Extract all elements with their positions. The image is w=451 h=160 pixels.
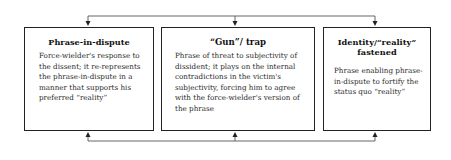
box-description: Force-wielder's response to the dissent;…	[39, 51, 149, 104]
box-gun-trap: “Gun”/ trap Phrase of threat to subjecti…	[161, 27, 315, 131]
box-description: Phrase enabling phrase-in-dispute to for…	[334, 66, 429, 98]
box-identity-reality-fastened: Identity/“reality” fastened Phrase enabl…	[323, 27, 431, 131]
box-title: Phrase-in-dispute	[25, 37, 153, 47]
box-title: “Gun”/ trap	[162, 37, 314, 47]
bottom-connector	[88, 136, 375, 141]
down-arrow-icon	[86, 21, 378, 26]
box-phrase-in-dispute: Phrase-in-dispute Force-wielder's respon…	[24, 27, 154, 131]
top-connector	[88, 16, 375, 22]
box-title: Identity/“reality” fastened	[324, 37, 430, 57]
up-arrow-icon	[86, 132, 378, 137]
box-description: Phrase of threat to subjectivity of diss…	[175, 51, 311, 115]
